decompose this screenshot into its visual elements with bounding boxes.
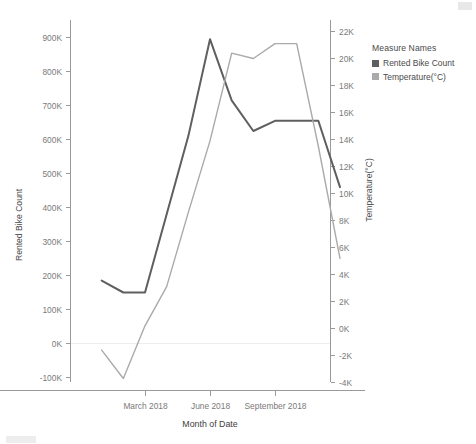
- left-tick-label: -100K: [40, 373, 63, 383]
- left-tick-label: 200K: [42, 271, 62, 281]
- right-axis-ticks: [331, 32, 335, 383]
- left-tick-label: 400K: [42, 203, 62, 213]
- right-tick-label: 4K: [339, 270, 350, 280]
- right-tick-label: 8K: [339, 216, 350, 226]
- left-tick-label: 100K: [42, 305, 62, 315]
- legend-item-label: Rented Bike Count: [383, 57, 454, 69]
- right-tick-label: 12K: [339, 162, 354, 172]
- right-tick-label: 10K: [339, 189, 354, 199]
- right-tick-label: 2K: [339, 297, 350, 307]
- bottom-tick-label: June 2018: [191, 401, 230, 411]
- legend-swatch-icon: [372, 60, 379, 67]
- right-tick-label: 16K: [339, 108, 354, 118]
- legend-item-rented-bike-count[interactable]: Rented Bike Count: [372, 57, 472, 69]
- right-tick-label: 14K: [339, 135, 354, 145]
- left-tick-label: 300K: [42, 237, 62, 247]
- right-tick-label: 0K: [339, 324, 350, 334]
- left-tick-label: 600K: [42, 135, 62, 145]
- bottom-tick-label: March 2018: [123, 401, 168, 411]
- left-tick-label: 0K: [52, 339, 63, 349]
- left-axis-tick-labels: 900K 800K 700K 600K 500K 400K 300K 200K …: [40, 33, 63, 383]
- left-tick-label: 700K: [42, 101, 62, 111]
- right-axis-title: Temperature(°C): [364, 158, 374, 222]
- bottom-axis-title: Month of Date: [182, 419, 237, 429]
- right-tick-label: 20K: [339, 54, 354, 64]
- left-axis-ticks: [66, 38, 70, 378]
- right-tick-label: -4K: [339, 378, 352, 388]
- legend-title: Measure Names: [372, 42, 472, 54]
- legend-swatch-icon: [372, 73, 379, 80]
- line-temperature: [102, 44, 340, 379]
- right-tick-label: 18K: [339, 81, 354, 91]
- legend-item-temperature[interactable]: Temperature(°C): [372, 71, 472, 83]
- right-tick-label: 6K: [339, 243, 350, 253]
- chart-root: 900K 800K 700K 600K 500K 400K 300K 200K …: [0, 0, 476, 444]
- legend-item-label: Temperature(°C): [383, 71, 446, 83]
- series-lines: [102, 39, 340, 378]
- left-tick-label: 500K: [42, 169, 62, 179]
- legend: Measure Names Rented Bike Count Temperat…: [372, 42, 472, 84]
- bottom-axis-tick-labels: March 2018 June 2018 September 2018: [123, 401, 306, 411]
- left-tick-label: 800K: [42, 67, 62, 77]
- bottom-tick-label: September 2018: [245, 401, 307, 411]
- bottom-axis-ticks: [146, 391, 276, 396]
- right-tick-label: -2K: [339, 351, 352, 361]
- right-tick-label: 22K: [339, 27, 354, 37]
- left-axis-title: Rented Bike Count: [14, 188, 24, 261]
- left-tick-label: 900K: [42, 33, 62, 43]
- right-axis-tick-labels: 22K 20K 18K 16K 14K 12K 10K 8K 6K 4K 2K …: [339, 27, 354, 388]
